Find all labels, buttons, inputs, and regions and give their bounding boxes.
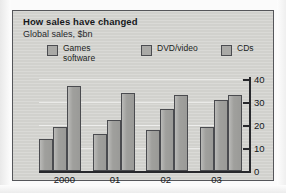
legend-label-dvd-video: DVD/video xyxy=(157,44,198,54)
legend-item-cds: CDs xyxy=(221,44,254,56)
x-axis-tick-label: 2000 xyxy=(44,174,84,185)
y-axis-tick xyxy=(243,148,249,150)
bar-group xyxy=(93,79,135,171)
scan-edge-right xyxy=(277,0,286,193)
y-axis-tick-label: 30 xyxy=(254,98,265,107)
cds-swatch xyxy=(221,45,232,56)
y-axis-line xyxy=(249,77,251,173)
scan-edge-bottom xyxy=(0,185,286,193)
y-axis-tick xyxy=(243,102,249,104)
bar xyxy=(174,95,188,171)
bar xyxy=(160,109,174,171)
chart-subtitle: Global sales, $bn xyxy=(23,29,93,39)
y-axis-tick xyxy=(243,171,249,173)
bar-groups xyxy=(39,79,242,171)
bar xyxy=(107,120,121,171)
y-axis-tick-label: 10 xyxy=(254,144,265,153)
bar xyxy=(146,130,160,171)
y-axis-tick xyxy=(243,79,249,81)
chart-panel: How sales have changed Global sales, $bn… xyxy=(12,10,274,181)
bar xyxy=(214,100,228,171)
bar xyxy=(200,127,214,171)
x-axis-tick-label: 01 xyxy=(95,174,135,185)
bar-group xyxy=(39,79,81,171)
legend-label-cds: CDs xyxy=(237,44,254,54)
bar xyxy=(93,134,107,171)
bar-group xyxy=(146,79,188,171)
chart-title: How sales have changed xyxy=(23,16,138,27)
x-axis-line xyxy=(39,171,251,173)
scan-edge-left xyxy=(0,0,11,193)
bar-group xyxy=(200,79,242,171)
x-axis-tick-label: 02 xyxy=(146,174,186,185)
bar xyxy=(53,127,67,171)
y-axis-tick-label: 20 xyxy=(254,121,265,130)
y-axis-tick-label: 0 xyxy=(254,167,259,176)
y-axis-tick xyxy=(243,125,249,127)
games-software-swatch xyxy=(47,45,58,56)
bar xyxy=(39,139,53,171)
legend-label-games-software: Games software xyxy=(63,44,95,63)
bar xyxy=(121,93,135,171)
plot-area xyxy=(39,79,242,171)
bar xyxy=(67,86,81,171)
x-axis-tick-label: 03 xyxy=(197,174,237,185)
bar xyxy=(228,95,242,171)
y-axis-tick-label: 40 xyxy=(254,75,265,84)
legend-item-dvd-video: DVD/video xyxy=(141,44,198,56)
chart-legend: Games software DVD/video CDs xyxy=(47,44,265,68)
dvd-video-swatch xyxy=(141,45,152,56)
legend-item-games-software: Games software xyxy=(47,44,95,63)
figure-container: How sales have changed Global sales, $bn… xyxy=(0,0,286,193)
